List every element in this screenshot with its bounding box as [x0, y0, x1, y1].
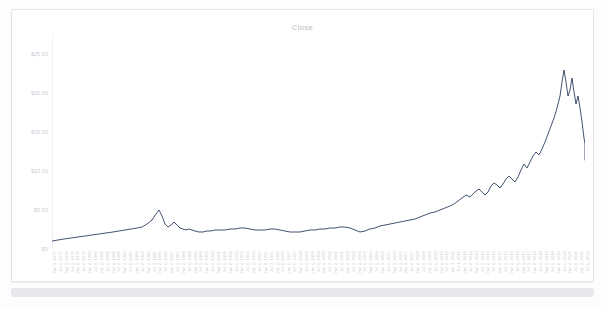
- x-axis-tick-label: Jan 2, 1991: [216, 251, 221, 274]
- x-axis-tick-label: Jul 2, 1990: [210, 251, 215, 272]
- x-axis-tick-label: Jan 2, 1985: [146, 251, 151, 274]
- x-axis-tick-label: Jul 2, 2001: [339, 251, 344, 272]
- x-axis-tick-label: Jan 3, 2012: [462, 251, 467, 274]
- x-axis-tick-label: Jan 3, 2011: [450, 251, 455, 273]
- y-axis-tick-label: $0: [42, 246, 48, 252]
- x-axis-tick-label: Jan 4, 1988: [181, 251, 186, 274]
- x-axis-tick-label: Jul 1, 2002: [351, 251, 356, 272]
- x-axis-tick-label: Jul 1, 2021: [573, 251, 578, 272]
- x-axis-tick-label: Jul 3, 1978: [70, 251, 75, 272]
- x-axis-tick-label: Jul 2, 1979: [81, 251, 86, 272]
- chart-title: Close: [12, 23, 593, 32]
- x-axis-tick-label: Jul 3, 2000: [327, 251, 332, 272]
- x-axis-tick-label: Jul 1, 2008: [421, 251, 426, 272]
- x-axis-tick-label: Jan 3, 2006: [392, 251, 397, 274]
- x-axis-tick-label: Jul 1, 1998: [304, 251, 309, 272]
- x-axis-tick-label: Jan 4, 1993: [239, 251, 244, 274]
- x-axis-tick-label: Jul 2, 2018: [538, 251, 543, 272]
- x-axis-tick-label: Jan 4, 1999: [310, 251, 315, 274]
- x-axis-tick-label: Jan 4, 2010: [439, 251, 444, 274]
- x-axis-tick-label: Jul 1, 2005: [386, 251, 391, 272]
- y-axis-tick-label: $15.00: [31, 129, 48, 135]
- x-axis-tick-label: Jan 4, 1982: [111, 251, 116, 274]
- y-axis-tick-label: $10.00: [31, 168, 48, 174]
- x-axis-tick-label: Jan 3, 2017: [521, 251, 526, 274]
- x-axis-tick-label: Jan 3, 2022: [579, 251, 584, 274]
- x-axis-tick-label: Jan 2, 1998: [298, 251, 303, 274]
- x-axis-tick-label: Jan 2, 2020: [556, 251, 561, 274]
- x-axis-tick-label: Jul 1, 1981: [105, 251, 110, 272]
- x-axis-tick-label: Jul 1, 1994: [257, 251, 262, 272]
- x-axis-tick-label: Jul 1, 1977: [58, 251, 63, 272]
- x-axis-tick-label: Jan 2, 2014: [485, 251, 490, 274]
- y-axis: $5.00$10.00$15.00$20.00$25.00$0: [12, 34, 48, 249]
- x-axis-tick-label: Jul 1, 1999: [316, 251, 321, 272]
- x-axis-tick-label: Jan 2, 1981: [99, 251, 104, 274]
- x-axis-tick-label: Jul 3, 2017: [526, 251, 531, 272]
- x-axis-tick-label: Jan 3, 1978: [64, 251, 69, 274]
- x-axis-tick-label: Jan 3, 2000: [321, 251, 326, 274]
- x-axis-tick-label: Jan 3, 1989: [193, 251, 198, 274]
- x-axis-tick-label: Jul 1, 1983: [128, 251, 133, 272]
- y-axis-tick-label: $5.00: [34, 207, 48, 213]
- x-axis-tick-label: Jul 1, 2014: [491, 251, 496, 272]
- x-axis-tick-label: Jan 2, 2009: [427, 251, 432, 274]
- x-axis-tick-label: Jan 3, 1995: [263, 251, 268, 274]
- x-axis-tick-label: Jan 2, 2018: [532, 251, 537, 274]
- x-axis-tick-label: Jan 3, 1984: [134, 251, 139, 274]
- x-axis-tick-label: Jul 1, 2010: [444, 251, 449, 272]
- x-axis-tick-label: Jan 2, 2002: [345, 251, 350, 274]
- x-axis-tick-label: Jul 1, 2004: [374, 251, 379, 272]
- x-axis-tick-label: Jul 3, 1989: [198, 251, 203, 272]
- x-axis: Jan 3, 1977Jul 1, 1977Jan 3, 1978Jul 3, …: [52, 251, 585, 282]
- close-price-line-series: [52, 34, 585, 249]
- x-axis-tick-label: Jul 3, 1995: [269, 251, 274, 272]
- x-axis-tick-label: Jul 1, 1996: [280, 251, 285, 272]
- plot-area[interactable]: [52, 34, 585, 249]
- x-axis-tick-label: Jan 2, 1996: [275, 251, 280, 274]
- x-axis-tick-label: Jul 1, 2003: [362, 251, 367, 272]
- x-axis-tick-label: Jul 1, 2013: [480, 251, 485, 272]
- x-axis-tick-label: Jul 1, 1991: [222, 251, 227, 272]
- x-axis-tick-label: Jul 1, 2019: [550, 251, 555, 272]
- x-axis-tick-label: Jan 2, 2019: [544, 251, 549, 274]
- horizontal-scrollbar[interactable]: [11, 288, 594, 297]
- scrollbar-thumb[interactable]: [11, 288, 594, 297]
- x-axis-tick-label: Jan 2, 1980: [87, 251, 92, 274]
- x-axis-tick-label: Jan 2, 2013: [474, 251, 479, 274]
- x-axis-tick-label: Jan 4, 2021: [567, 251, 572, 274]
- x-axis-tick-label: Jul 1, 1980: [93, 251, 98, 272]
- x-axis-tick-label: Jul 1, 1985: [152, 251, 157, 272]
- x-axis-tick-label: Jan 2, 1992: [228, 251, 233, 274]
- chart-screenshot-root: Close $5.00$10.00$15.00$20.00$25.00$0 Ja…: [0, 0, 607, 309]
- x-axis-tick-label: Jan 2, 1986: [157, 251, 162, 274]
- x-axis-tick-label: Jan 3, 1994: [251, 251, 256, 274]
- x-axis-tick-label: Jan 3, 1983: [122, 251, 127, 274]
- x-axis-tick-label: Jul 1, 2015: [503, 251, 508, 272]
- chart-card: Close $5.00$10.00$15.00$20.00$25.00$0 Ja…: [11, 9, 594, 282]
- x-axis-tick-label: Jan 2, 2004: [368, 251, 373, 274]
- x-axis-tick-label: Jan 2, 2008: [415, 251, 420, 274]
- x-axis-tick-label: Jul 3, 2006: [398, 251, 403, 272]
- x-axis-tick-label: Jul 1, 2016: [515, 251, 520, 272]
- x-axis-tick-label: Jul 1, 1992: [234, 251, 239, 272]
- x-axis-tick-label: Jul 1, 2009: [433, 251, 438, 272]
- x-axis-tick-label: Jul 1, 1982: [116, 251, 121, 272]
- x-axis-tick-label: Jan 2, 1979: [75, 251, 80, 274]
- x-axis-tick-label: Jul 1, 1993: [245, 251, 250, 272]
- x-axis-tick-label: Jan 2, 1997: [286, 251, 291, 274]
- x-axis-tick-label: Jan 2, 2003: [357, 251, 362, 274]
- x-axis-tick-label: Jul 1, 1986: [163, 251, 168, 272]
- x-axis-tick-label: Jan 4, 2016: [509, 251, 514, 274]
- y-axis-tick-label: $25.00: [31, 51, 48, 57]
- x-axis-tick-label: Jul 2, 2007: [409, 251, 414, 272]
- y-axis-tick-label: $20.00: [31, 90, 48, 96]
- x-axis-tick-label: Jul 2, 1984: [140, 251, 145, 272]
- x-axis-tick-label: Jan 2, 1987: [169, 251, 174, 274]
- x-axis-tick-label: Jan 3, 1977: [52, 251, 57, 274]
- x-axis-tick-label: Jul 1, 1997: [292, 251, 297, 272]
- x-axis-tick-label: Jul 1, 2022: [585, 251, 590, 272]
- x-axis-tick-label: Jan 2, 2001: [333, 251, 338, 274]
- x-axis-tick-label: Jul 1, 2020: [562, 251, 567, 272]
- x-axis-tick-label: Jan 3, 2005: [380, 251, 385, 274]
